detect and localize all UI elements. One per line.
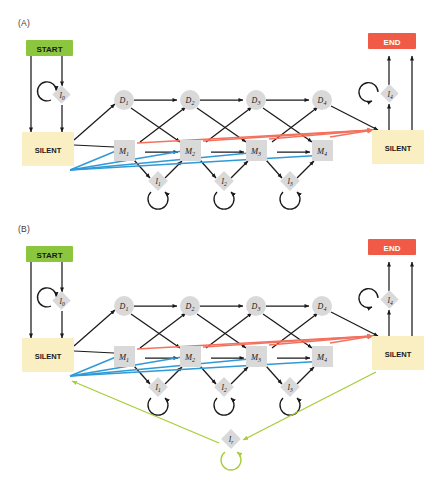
panel-a-end-label: END [384,38,401,47]
panel-b-black-edges [31,262,412,384]
panel-b-label: (B) [18,224,30,234]
panel-a-start-label: START [36,45,62,54]
panel-b-start-label: START [36,251,62,260]
panel-a-black-edges [31,56,412,178]
panel-a-silent-right-label: SILENT [385,144,412,153]
panel-a-silent-left-label: SILENT [35,146,62,155]
panel-a-label: (A) [18,18,30,28]
hmm-diagram-canvas: START END SILENT SILENT [0,0,439,488]
panel-b-silent-right-label: SILENT [385,350,412,359]
profile-hmm-figure: (A) (B) [0,0,439,488]
panel-b-silent-left-label: SILENT [35,352,62,361]
panel-a: START END SILENT SILENT [22,33,424,209]
panel-b-end-label: END [384,244,401,253]
panel-b: START END SILENT SILENT [22,239,424,470]
